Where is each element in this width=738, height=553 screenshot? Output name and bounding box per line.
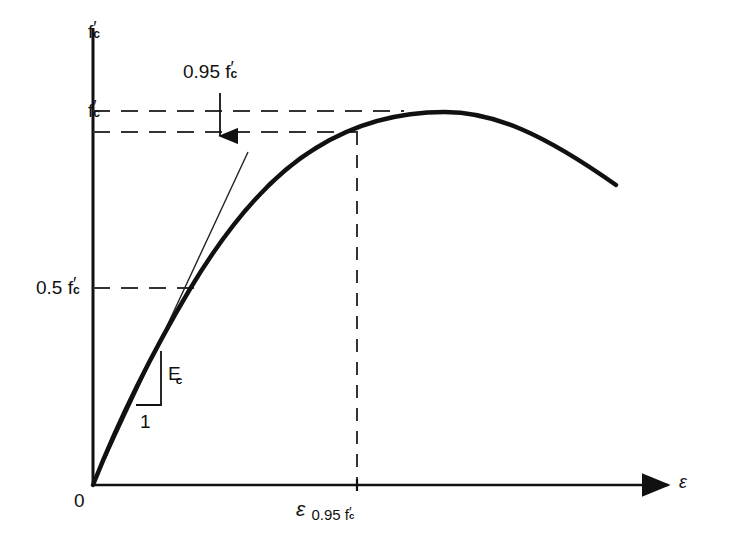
y-axis-top-label: f′c: [88, 22, 93, 41]
annot-095-prefix: 0.95: [183, 61, 220, 82]
chart-canvas: [0, 0, 738, 553]
fc-label-sub: c: [93, 107, 100, 119]
unit-run-label: 1: [140, 412, 151, 431]
x-tick-epsilon: ε: [296, 497, 305, 520]
x-tick-sub-c: c: [349, 511, 354, 521]
annotation-label-095fc: 0.95 f′c: [183, 62, 231, 81]
origin-label: 0: [74, 491, 85, 510]
half-fc-sub: c: [73, 284, 80, 296]
annot-095-sub: c: [231, 68, 238, 80]
x-axis-tick-label-095fc: ε 0.95 f′c: [296, 498, 347, 519]
half-fc-prefix: 0.5: [36, 277, 62, 298]
y-axis-top-sub: c: [93, 28, 100, 40]
y-axis-label-half-fc: 0.5 f′c: [36, 278, 73, 297]
modulus-label-ec: Ec: [168, 364, 187, 383]
stress-strain-curve: [93, 112, 616, 485]
x-axis-epsilon: ε: [679, 472, 687, 492]
ec-subscript: c: [176, 373, 183, 386]
figure-root: f′c f′c 0.5 f′c 0.95 f′c Ec 1 0 ε ε 0.95…: [0, 0, 738, 553]
x-tick-sub-prefix: 0.95: [311, 506, 340, 523]
y-axis-label-fc: f′c: [88, 101, 93, 120]
x-axis-label: ε: [679, 473, 687, 491]
